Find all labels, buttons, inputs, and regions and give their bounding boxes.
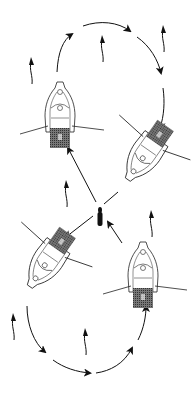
angler-figure [98, 207, 103, 226]
boat-bottom-left [0, 207, 100, 309]
cross-lines [66, 148, 122, 243]
drift-arrow-icon [100, 35, 105, 62]
boat-top-left [20, 82, 104, 148]
lower-loop-path [27, 306, 146, 373]
drift-arrow-icon [161, 25, 166, 52]
figure-eight-diagram [0, 0, 194, 403]
drift-arrow-icon [149, 210, 154, 237]
drift-arrow-icon [11, 313, 16, 340]
drift-arrow-icon [83, 328, 88, 355]
drift-arrow-icon [29, 57, 34, 84]
boat-right [92, 100, 194, 202]
drift-arrow-icon [64, 180, 69, 207]
boat-bottom-right [103, 242, 187, 308]
